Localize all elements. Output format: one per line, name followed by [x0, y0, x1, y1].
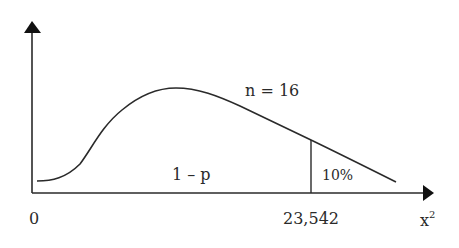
- x-origin-label: 0: [29, 211, 39, 227]
- region-right-label: 10%: [322, 168, 353, 182]
- y-axis-arrow-icon: [24, 21, 41, 33]
- x-axis-arrow-icon: [423, 185, 434, 201]
- x-axis-label: x2: [420, 212, 435, 229]
- curve-label: n = 16: [245, 83, 299, 99]
- chi-square-diagram: [0, 0, 459, 248]
- critical-value-label: 23,542: [283, 211, 339, 227]
- region-left-label: 1 – p: [172, 167, 211, 183]
- x-axis-label-superscript: 2: [429, 209, 435, 220]
- x-axis-label-base: x: [420, 211, 429, 230]
